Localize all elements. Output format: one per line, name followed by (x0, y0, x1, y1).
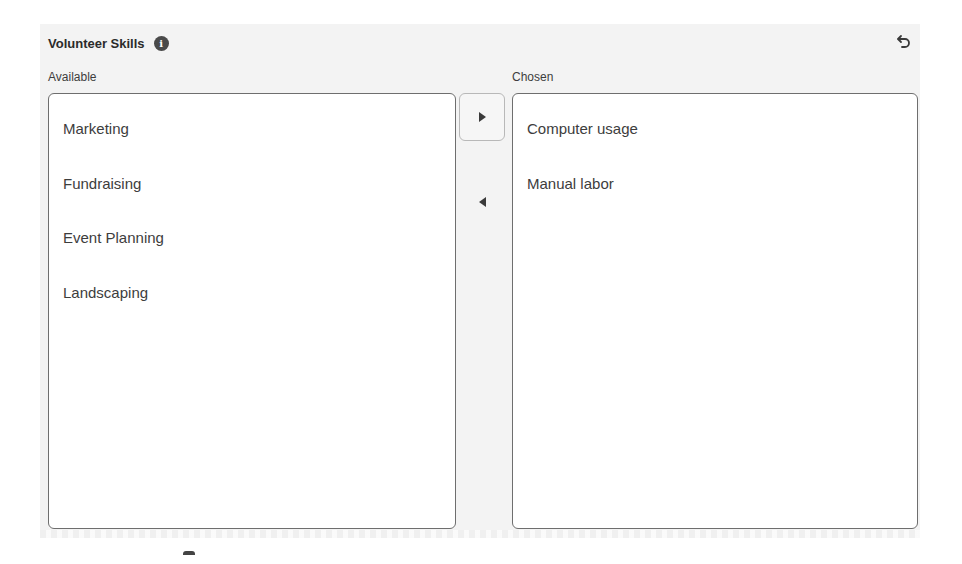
undo-icon (896, 34, 912, 50)
field-header: Volunteer Skills i (48, 36, 169, 51)
chosen-item-computer-usage[interactable]: Computer usage (513, 118, 917, 173)
info-icon[interactable]: i (154, 36, 169, 51)
move-to-available-button[interactable] (465, 187, 499, 217)
dual-listbox-panel: Volunteer Skills i Available Chosen Mark… (40, 24, 920, 530)
available-item-marketing[interactable]: Marketing (49, 118, 455, 173)
triangle-left-icon (479, 197, 486, 207)
chosen-item-manual-labor[interactable]: Manual labor (513, 173, 917, 228)
available-label: Available (48, 70, 96, 84)
chosen-label: Chosen (512, 70, 553, 84)
cutoff-glyph (183, 551, 195, 555)
chosen-listbox[interactable]: Computer usage Manual labor (512, 93, 918, 529)
move-to-chosen-button[interactable] (459, 93, 505, 141)
field-title: Volunteer Skills (48, 36, 145, 51)
available-listbox[interactable]: Marketing Fundraising Event Planning Lan… (48, 93, 456, 529)
available-item-landscaping[interactable]: Landscaping (49, 282, 455, 337)
available-item-event-planning[interactable]: Event Planning (49, 227, 455, 282)
undo-button[interactable] (894, 32, 914, 52)
footer-divider (40, 530, 920, 538)
triangle-right-icon (479, 112, 486, 122)
available-item-fundraising[interactable]: Fundraising (49, 173, 455, 228)
